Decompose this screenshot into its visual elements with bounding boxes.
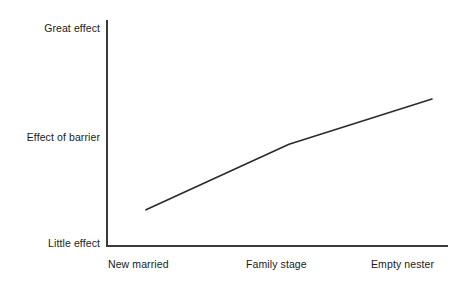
- y-axis-line: [106, 20, 108, 247]
- y-axis-label-effect-of-barrier: Effect of barrier: [27, 131, 100, 143]
- x-axis-title-family-stage: Family stage: [246, 258, 307, 270]
- y-axis-label-great-effect: Great effect: [44, 22, 100, 34]
- line-chart: Great effect Effect of barrier Little ef…: [0, 0, 463, 289]
- x-axis-line: [106, 245, 448, 247]
- x-axis-label-new-married: New married: [108, 258, 169, 270]
- data-series-line: [146, 99, 432, 210]
- x-axis-label-empty-nester: Empty nester: [371, 258, 434, 270]
- y-axis-label-little-effect: Little effect: [48, 237, 100, 249]
